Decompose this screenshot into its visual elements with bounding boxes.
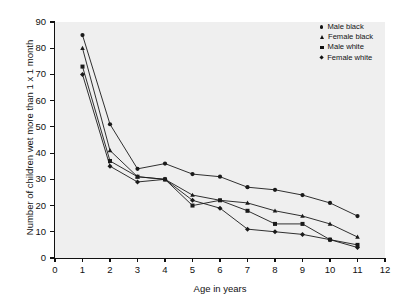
data-point-triangle [108, 148, 113, 152]
x-tick-mark [137, 258, 138, 262]
x-tick-label: 7 [238, 264, 258, 275]
data-point-square [273, 222, 277, 226]
series-male-white [81, 65, 360, 247]
x-tick-mark [192, 258, 193, 262]
x-tick-label: 3 [128, 264, 148, 275]
legend-item-male-black: Male black [318, 22, 373, 32]
data-point-circle [163, 162, 167, 166]
data-point-circle [245, 185, 249, 189]
y-tick-mark [50, 48, 54, 49]
y-tick-mark [50, 179, 54, 180]
data-point-square [136, 175, 140, 179]
data-point-circle [300, 193, 304, 197]
x-tick-mark [219, 258, 220, 262]
x-tick-label: 12 [375, 264, 395, 275]
legend-item-label: Female black [328, 32, 373, 42]
x-tick-label: 8 [265, 264, 285, 275]
data-point-square [246, 209, 250, 213]
x-tick-label: 11 [348, 264, 368, 275]
x-tick-mark [302, 258, 303, 262]
data-point-circle [218, 175, 222, 179]
y-tick-mark [50, 257, 54, 258]
data-point-circle [328, 201, 332, 205]
x-tick-label: 10 [320, 264, 340, 275]
legend-item-female-black: Female black [318, 32, 373, 42]
data-point-square [81, 65, 85, 69]
circle-marker-icon [320, 25, 323, 28]
y-axis-title: Number of children wet more than 1 x 1 m… [24, 13, 35, 263]
legend-item-male-white: Male white [318, 42, 373, 52]
series-line [83, 35, 358, 216]
data-point-square [218, 198, 222, 202]
y-tick-mark [50, 205, 54, 206]
legend-item-label: Female white [327, 53, 372, 63]
x-tick-label: 5 [183, 264, 203, 275]
x-tick-mark [82, 258, 83, 262]
data-point-diamond [108, 164, 113, 169]
y-tick-mark [50, 100, 54, 101]
x-tick-mark [247, 258, 248, 262]
legend-item-label: Male white [328, 42, 364, 52]
x-tick-label: 0 [45, 264, 65, 275]
x-tick-mark [357, 258, 358, 262]
data-point-square [301, 222, 305, 226]
legend-item-female-white: Female white [318, 53, 373, 63]
series-line [83, 74, 358, 247]
triangle-marker-icon [320, 35, 324, 39]
x-tick-label: 6 [210, 264, 230, 275]
y-axis-line [54, 21, 55, 259]
data-point-circle [108, 122, 112, 126]
x-tick-mark [274, 258, 275, 262]
data-point-circle [273, 188, 277, 192]
y-tick-mark [50, 231, 54, 232]
x-axis-title: Age in years [55, 283, 385, 294]
x-tick-label: 9 [293, 264, 313, 275]
y-tick-mark [50, 153, 54, 154]
legend-item-label: Male black [327, 22, 363, 32]
data-point-diamond [273, 229, 278, 234]
data-point-square [191, 204, 195, 208]
data-point-diamond [300, 232, 305, 237]
chart-legend: Male blackFemale blackMale whiteFemale w… [318, 22, 373, 63]
chart-figure: 0102030405060708090 0123456789101112 Num… [0, 0, 404, 307]
x-tick-mark [384, 258, 385, 262]
x-tick-label: 2 [100, 264, 120, 275]
x-tick-mark [329, 258, 330, 262]
x-tick-label: 4 [155, 264, 175, 275]
x-tick-mark [109, 258, 110, 262]
data-point-triangle [80, 46, 85, 50]
y-tick-mark [50, 126, 54, 127]
y-tick-mark [50, 21, 54, 22]
square-marker-icon [320, 46, 324, 50]
data-point-circle [355, 214, 359, 218]
data-point-circle [80, 33, 84, 37]
y-tick-mark [50, 74, 54, 75]
x-tick-mark [54, 258, 55, 262]
x-tick-mark [164, 258, 165, 262]
series-line [83, 67, 358, 245]
data-point-circle [190, 172, 194, 176]
data-point-diamond [135, 179, 140, 184]
data-point-triangle [190, 193, 195, 197]
data-point-circle [135, 167, 139, 171]
diamond-marker-icon [319, 55, 324, 60]
x-tick-label: 1 [73, 264, 93, 275]
series-female-white [80, 72, 360, 250]
